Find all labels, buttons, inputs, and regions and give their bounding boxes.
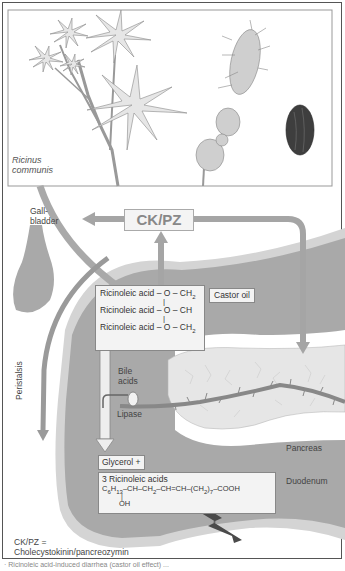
legend-line1: CK/PZ = [14, 537, 129, 547]
figure-caption: · Ricinoleic acid-induced diarrhea (cast… [4, 561, 169, 568]
arrow-to-ckpz-icon [154, 231, 168, 243]
glycerol-box: Glycerol + [98, 455, 145, 470]
ricinoleic-formula: C6H13–CH–CH2–CH=CH–(CH2)7–COOH [102, 484, 272, 494]
castor-oil-triglyceride-box: Ricinoleic acid – O – CH2 | Ricinoleic a… [95, 285, 205, 351]
ckpz-box: CK/PZ [124, 209, 194, 231]
plant-panel [8, 10, 332, 186]
castor-seed-icon [286, 105, 314, 155]
ckpz-legend: CK/PZ = Cholecystokinin/pancreozymin [14, 537, 129, 557]
species-epithet: communis [12, 165, 53, 175]
legend-line2: Cholecystokinin/pancreozymin [14, 547, 129, 557]
pancreas-label: Pancreas [286, 443, 322, 453]
bile-acids-line2: acids [118, 376, 138, 386]
ricinoleic-acid-box: 3 Ricinoleic acids C6H13–CH–CH2–CH=CH–(C… [98, 472, 276, 514]
species-genus: Ricinus [12, 155, 53, 165]
hydroxyl-group: OH [102, 500, 272, 508]
gallbladder-label-line1: Gall- [30, 206, 58, 216]
castor-oil-label: Castor oil [209, 288, 255, 303]
arrow-to-gallbladder-icon [82, 212, 95, 226]
triglyceride-row-2: Ricinoleic acid – O – CH [100, 305, 200, 316]
bile-acids-label: Bile acids [118, 366, 138, 386]
triglyceride-row-3: Ricinoleic acid – O – CH2 [100, 322, 200, 333]
triglyceride-row-1: Ricinoleic acid – O – CH2 [100, 288, 200, 299]
species-label: Ricinus communis [12, 155, 53, 175]
duodenum-label: Duodenum [286, 476, 328, 486]
ricinoleic-title: 3 Ricinoleic acids [102, 474, 272, 484]
lipase-label: Lipase [117, 409, 142, 419]
peristalsis-arrowhead-icon [37, 430, 49, 441]
peristalsis-label: Peristalsis [14, 361, 24, 400]
gallbladder-label: Gall- bladder [30, 206, 58, 226]
bile-acids-line1: Bile [118, 366, 138, 376]
lipase-icon [128, 392, 138, 406]
gallbladder-shape [13, 225, 54, 312]
gallbladder-label-line2: bladder [30, 216, 58, 226]
